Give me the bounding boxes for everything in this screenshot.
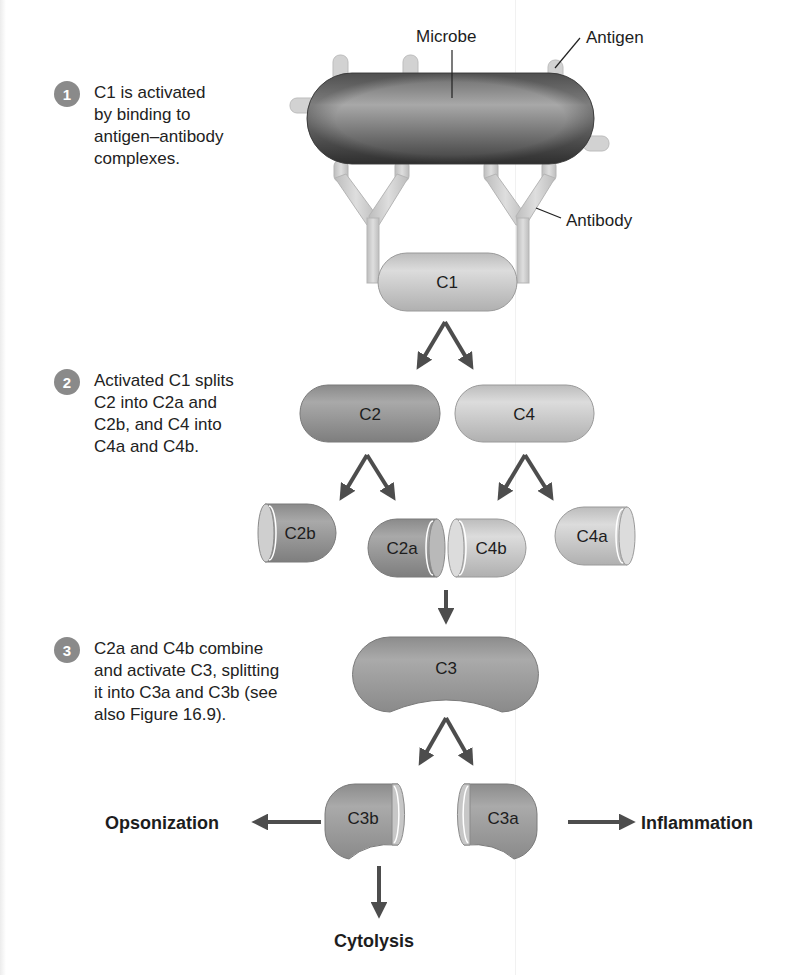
c4-label: C4 [513,405,535,424]
arrows-c2-split [343,455,392,495]
c2b-fragment: C2b [258,504,336,562]
antibody-label: Antibody [566,211,633,230]
c4b-label: C4b [475,539,506,558]
microbe-label: Microbe [416,27,476,46]
c3b-label: C3b [347,809,378,828]
callout-antibody: Antibody [536,208,633,230]
arrows-c1-split [420,322,470,364]
c3b-fragment: C3b [325,784,405,859]
c3-label: C3 [435,659,457,678]
c4b-fragment: C4b [448,519,526,577]
c4a-fragment: C4a [555,507,635,565]
callout-antigen: Antigen [555,28,644,68]
c4-protein: C4 [455,385,594,442]
opsonization-label: Opsonization [105,813,219,833]
c2-protein: C2 [300,385,440,442]
complement-diagram: Microbe Antigen Antibody C1 C2 C4 [0,0,805,975]
c2a-fragment: C2a [368,519,445,577]
microbe [307,73,594,164]
c4a-label: C4a [576,527,608,546]
cytolysis-label: Cytolysis [334,931,414,951]
c1-protein: C1 [378,253,517,311]
inflammation-label: Inflammation [641,813,753,833]
c3a-fragment: C3a [457,784,537,859]
c3-protein: C3 [353,637,539,712]
c2a-label: C2a [386,539,418,558]
c2b-label: C2b [284,524,315,543]
arrows-c3-split [422,718,470,760]
c2-label: C2 [359,405,381,424]
c1-label: C1 [436,273,458,292]
antigen-label: Antigen [586,28,644,47]
arrows-c4-split [501,455,550,495]
c3a-label: C3a [487,809,519,828]
